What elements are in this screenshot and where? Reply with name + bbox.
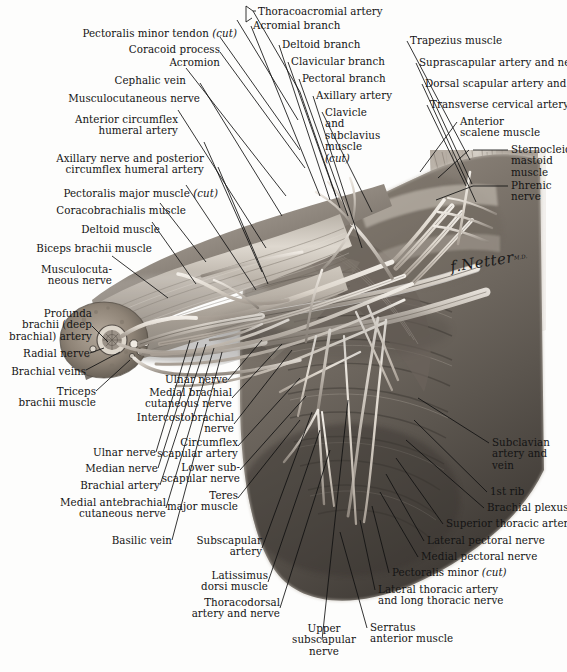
- label-acromial-branch: Acromial branch: [253, 20, 403, 31]
- label-acromion: Acromion: [10, 57, 220, 68]
- label-ulnar-nerve-mid: Ulnar nerve: [120, 374, 228, 385]
- label-thoracodorsal-artery-and-nerve: Thoracodorsal artery and nerve: [166, 597, 280, 620]
- label-anterior-scalene-muscle: Anterior scalene muscle: [460, 116, 567, 139]
- label-pectoral-branch: Pectoral branch: [302, 73, 432, 84]
- label-latissimus-dorsi-muscle: Latissimus dorsi muscle: [172, 570, 268, 593]
- label-anterior-circumflex-humeral-artery: Anterior circumflex humeral artery: [10, 114, 178, 137]
- label-teres-major-muscle: Teres major muscle: [140, 490, 238, 513]
- label-lateral-pectoral-nerve: Lateral pectoral nerve: [427, 535, 567, 546]
- signature-suffix: M.D.: [513, 253, 527, 261]
- label-first-rib: 1st rib: [490, 486, 567, 497]
- label-coracobrachialis-muscle: Coracobrachialis muscle: [6, 205, 186, 216]
- label-circumflex-scapular-artery: Circumflex scapular artery: [118, 437, 238, 460]
- label-lateral-thoracic-artery-long-thoracic-nerve: Lateral thoracic artery and long thoraci…: [378, 584, 548, 607]
- label-lower-subscapular-nerve: Lower sub- scapular nerve: [118, 462, 240, 485]
- label-suprascapular-artery-and-nerve: Suprascapular artery and nerve: [419, 57, 567, 68]
- label-brachial-plexus: Brachial plexus: [487, 502, 567, 513]
- label-upper-subscapular-nerve: Upper subscapular nerve: [276, 623, 372, 657]
- label-medial-brachial-cutaneous-nerve: Medial brachial cutaneous nerve: [112, 387, 232, 410]
- label-transverse-cervical-artery: Transverse cervical artery: [430, 99, 567, 110]
- label-triceps-brachii-muscle: Triceps brachii muscle: [2, 386, 96, 409]
- anatomy-plate: Pectoralis minor tendon (cut) Coracoid p…: [0, 0, 567, 672]
- label-subclavian-artery-and-vein: Subclavian artery and vein: [492, 437, 567, 471]
- label-phrenic-nerve: Phrenic nerve: [511, 180, 567, 203]
- label-superior-thoracic-artery: Superior thoracic artery: [446, 518, 567, 529]
- label-subscapular-artery: Subscapular artery: [170, 535, 262, 558]
- label-pectoralis-major-muscle-cut: Pectoralis major muscle (cut): [6, 188, 218, 199]
- label-medial-pectoral-nerve: Medial pectoral nerve: [421, 551, 567, 562]
- label-axillary-artery: Axillary artery: [316, 90, 440, 101]
- label-clavicle-and-subclavius-muscle-cut: Clavicle and subclavius muscle (cut): [325, 107, 411, 164]
- label-sternocleidomastoid-muscle: Sternocleido- mastoid muscle: [511, 144, 567, 178]
- label-trapezius-muscle: Trapezius muscle: [410, 35, 562, 46]
- label-intercostobrachial-nerve: Intercostobrachial nerve: [112, 412, 234, 435]
- label-pectoralis-minor-tendon-cut: Pectoralis minor tendon (cut): [10, 28, 237, 39]
- label-pectoralis-minor-cut: Pectoralis minor (cut): [392, 567, 552, 578]
- label-basilic-vein: Basilic vein: [10, 535, 172, 546]
- label-thoracoacromial-artery: Thoracoacromial artery: [258, 6, 418, 17]
- label-musculocutaneous-nerve-arm: Musculocuta- neous nerve: [6, 264, 112, 287]
- label-brachial-veins: Brachial veins: [2, 366, 86, 377]
- label-deltoid-muscle: Deltoid muscle: [6, 224, 160, 235]
- label-cephalic-vein: Cephalic vein: [10, 75, 186, 86]
- label-deltoid-branch: Deltoid branch: [282, 39, 422, 50]
- label-musculocutaneous-nerve-top: Musculocutaneous nerve: [10, 93, 200, 104]
- label-biceps-brachii-muscle: Biceps brachii muscle: [6, 243, 152, 254]
- label-dorsal-scapular-artery-and-nerve: Dorsal scapular artery and nerve: [425, 78, 567, 89]
- label-axillary-nerve-posterior-circumflex: Axillary nerve and posterior circumflex …: [6, 153, 204, 176]
- label-clavicular-branch: Clavicular branch: [291, 56, 431, 67]
- label-radial-nerve: Radial nerve: [2, 348, 90, 359]
- label-profunda-brachii-artery: Profunda brachii (deep brachial) artery: [2, 308, 92, 342]
- label-coracoid-process: Coracoid process: [10, 44, 220, 55]
- label-serratus-anterior-muscle: Serratus anterior muscle: [370, 622, 490, 645]
